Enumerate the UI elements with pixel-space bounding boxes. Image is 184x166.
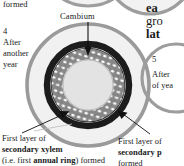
- step-5-line-1: After: [152, 70, 170, 79]
- caption-xylem-line-2: secondary xylem: [2, 145, 63, 154]
- pith-center: [63, 60, 113, 110]
- step-4-line-3: year: [3, 60, 18, 69]
- caption-xylem-line-3-post: ) formed: [75, 155, 105, 165]
- cambium-label: Cambium: [60, 12, 95, 21]
- caption-xylem-annual-ring: annual ring: [33, 155, 75, 165]
- right-heading-line-3: lat: [146, 28, 160, 42]
- caption-phloem-line-1: First layer of: [118, 137, 162, 146]
- step-4-line-1: After: [3, 38, 21, 47]
- step-4-line-2: another: [3, 49, 29, 58]
- caption-xylem-line-1: First layer of: [2, 134, 46, 143]
- label-formed-fragment: formed: [3, 0, 28, 9]
- caption-phloem-line-3: formed: [118, 159, 143, 166]
- caption-xylem-line-3-pre: (i.e. first: [2, 155, 33, 165]
- caption-phloem-line-2: secondary p: [118, 148, 162, 157]
- caption-xylem-line-3: (i.e. first annual ring) formed: [2, 156, 105, 165]
- step-5-number: 5: [152, 55, 156, 64]
- step-5-line-2: of yea: [152, 81, 173, 90]
- previous-stage-circle-top-right: [106, 0, 184, 14]
- diagram-canvas: formed 4 After another year Cambium ea g…: [0, 0, 184, 166]
- step-4-number: 4: [3, 27, 7, 36]
